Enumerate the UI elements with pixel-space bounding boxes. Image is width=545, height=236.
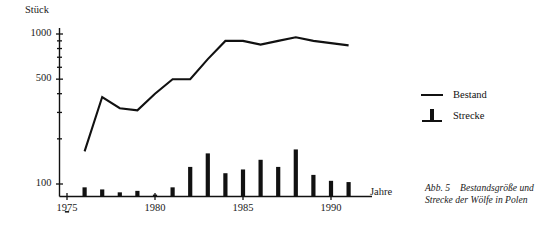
- legend-line-key-icon: [420, 88, 444, 102]
- bar-strecke: [83, 187, 87, 196]
- bar-strecke: [206, 153, 210, 196]
- bar-strecke: [329, 181, 333, 197]
- bar-strecke: [311, 175, 315, 197]
- x-tick-label: 1975: [45, 202, 89, 213]
- axes: [60, 28, 373, 197]
- y-tick-label: 1000: [16, 27, 52, 38]
- bar-strecke: [100, 189, 104, 196]
- legend-label-strecke: Strecke: [453, 110, 485, 121]
- legend-item-bestand: Bestand: [420, 86, 487, 103]
- x-tick-label: 1990: [309, 202, 353, 213]
- bestand-line: [85, 37, 349, 151]
- bar-strecke: [241, 169, 245, 196]
- legend-item-strecke: Strecke: [420, 107, 487, 124]
- bar-strecke: [259, 160, 263, 197]
- chart-legend: Bestand Strecke: [420, 86, 487, 128]
- legend-bar-key-icon: [420, 109, 444, 123]
- bar-strecke: [153, 195, 157, 197]
- bar-strecke: [347, 182, 351, 196]
- bar-strecke: [294, 149, 298, 196]
- caption-number: Abb. 5: [425, 182, 450, 193]
- figure-wolf-population-poland: Stück Jahre 1000500100 1975198019851990 …: [0, 0, 545, 236]
- bar-strecke: [135, 191, 139, 197]
- y-tick-label: 100: [16, 177, 52, 188]
- bar-strecke: [276, 167, 280, 197]
- bar-strecke: [223, 173, 227, 196]
- y-tick-label: 500: [16, 72, 52, 83]
- bar-strecke: [118, 192, 122, 196]
- x-tick-label: 1985: [221, 202, 265, 213]
- strecke-bars: [65, 149, 351, 212]
- bar-strecke: [188, 167, 192, 197]
- x-tick-label: 1980: [133, 202, 177, 213]
- legend-label-bestand: Bestand: [453, 89, 487, 100]
- figure-caption: Abb. 5Bestandsgröße und Strecke der Wölf…: [425, 182, 540, 205]
- bar-strecke: [171, 187, 175, 196]
